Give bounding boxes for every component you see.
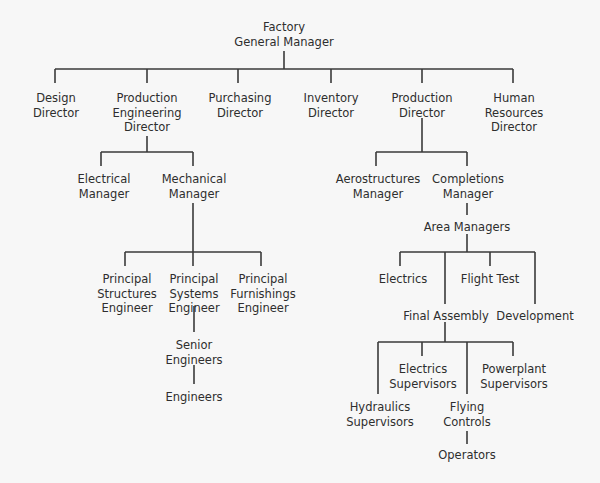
org-node-elecmgr: ElectricalManager [78, 172, 131, 201]
org-node-flying: FlyingControls [443, 400, 491, 429]
org-node-electrics: Electrics [379, 272, 428, 287]
org-node-mechmgr: MechanicalManager [162, 172, 227, 201]
org-node-label-line: Engineering [113, 106, 182, 121]
org-node-area: Area Managers [424, 220, 511, 235]
org-node-label-line: Supervisors [480, 377, 547, 392]
org-node-label-line: Aerostructures [336, 172, 420, 187]
org-node-label-line: General Manager [234, 35, 333, 50]
org-node-label-line: Furnishings [230, 287, 295, 302]
org-node-label-line: Engineer [230, 301, 295, 316]
org-node-label-line: Factory [234, 20, 333, 35]
org-node-label-line: Engineers [165, 353, 222, 368]
org-node-purch: PurchasingDirector [209, 91, 272, 120]
org-node-label-line: Flying [443, 400, 491, 415]
org-node-label-line: Completions [432, 172, 504, 187]
org-node-label-line: Principal [168, 272, 219, 287]
org-node-label-line: Engineer [168, 301, 219, 316]
org-node-label-line: Engineers [165, 390, 222, 405]
org-node-label-line: Human [485, 91, 544, 106]
org-node-label-line: Director [485, 120, 544, 135]
org-node-label-line: Engineer [97, 301, 157, 316]
org-node-label-line: Electrical [78, 172, 131, 187]
org-node-label-line: Principal [97, 272, 157, 287]
org-node-engineers: Engineers [165, 390, 222, 405]
org-node-label-line: Operators [438, 448, 495, 463]
org-node-pfe: PrincipalFurnishingsEngineer [230, 272, 295, 316]
org-node-label-line: Director [113, 120, 182, 135]
org-node-label-line: Supervisors [346, 415, 413, 430]
org-node-label-line: Manager [336, 187, 420, 202]
org-node-compl: CompletionsManager [432, 172, 504, 201]
org-node-hyd: HydraulicsSupervisors [346, 400, 413, 429]
org-node-operators: Operators [438, 448, 495, 463]
org-node-inv: InventoryDirector [304, 91, 359, 120]
org-node-gm: FactoryGeneral Manager [234, 20, 333, 49]
org-node-label-line: Hydraulics [346, 400, 413, 415]
org-node-senior: SeniorEngineers [165, 338, 222, 367]
org-chart: FactoryGeneral ManagerDesignDirectorProd… [0, 0, 600, 483]
org-node-label-line: Flight Test [461, 272, 519, 287]
org-node-label-line: Manager [78, 187, 131, 202]
org-node-label-line: Principal [230, 272, 295, 287]
org-node-label-line: Structures [97, 287, 157, 302]
org-node-label-line: Director [33, 106, 79, 121]
org-node-label-line: Electrics [389, 362, 456, 377]
org-node-label-line: Supervisors [389, 377, 456, 392]
org-node-dev: Development [496, 309, 573, 324]
org-node-label-line: Controls [443, 415, 491, 430]
org-node-power: PowerplantSupervisors [480, 362, 547, 391]
org-node-label-line: Development [496, 309, 573, 324]
org-node-psys: PrincipalSystemsEngineer [168, 272, 219, 316]
org-node-label-line: Systems [168, 287, 219, 302]
org-node-pse: PrincipalStructuresEngineer [97, 272, 157, 316]
connector-lines [0, 0, 600, 483]
org-node-label-line: Inventory [304, 91, 359, 106]
org-node-prodeng: ProductionEngineeringDirector [113, 91, 182, 135]
org-node-label-line: Powerplant [480, 362, 547, 377]
org-node-aero: AerostructuresManager [336, 172, 420, 201]
org-node-label-line: Mechanical [162, 172, 227, 187]
org-node-label-line: Director [391, 106, 452, 121]
org-node-label-line: Electrics [379, 272, 428, 287]
org-node-label-line: Purchasing [209, 91, 272, 106]
org-node-label-line: Director [304, 106, 359, 121]
org-node-hr: HumanResourcesDirector [485, 91, 544, 135]
org-node-label-line: Area Managers [424, 220, 511, 235]
org-node-final: Final Assembly [403, 309, 489, 324]
org-node-label-line: Design [33, 91, 79, 106]
org-node-flight: Flight Test [461, 272, 519, 287]
org-node-label-line: Manager [432, 187, 504, 202]
org-node-design: DesignDirector [33, 91, 79, 120]
org-node-elecsup: ElectricsSupervisors [389, 362, 456, 391]
org-node-label-line: Manager [162, 187, 227, 202]
org-node-label-line: Director [209, 106, 272, 121]
org-node-label-line: Production [113, 91, 182, 106]
org-node-proddir: ProductionDirector [391, 91, 452, 120]
org-node-label-line: Resources [485, 106, 544, 121]
org-node-label-line: Production [391, 91, 452, 106]
org-node-label-line: Final Assembly [403, 309, 489, 324]
org-node-label-line: Senior [165, 338, 222, 353]
